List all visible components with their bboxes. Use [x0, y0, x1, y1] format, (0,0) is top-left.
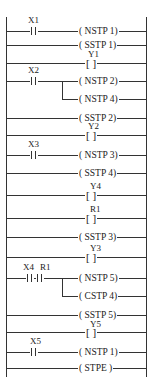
contact-x2: [30, 77, 38, 85]
contact-label: X1: [28, 16, 39, 25]
rung-17: [6, 332, 146, 333]
rung-11: [6, 218, 146, 219]
rung-10: [6, 195, 146, 196]
contact-r1: [36, 274, 44, 282]
rung-19: [6, 368, 146, 369]
rung-3: [6, 63, 146, 64]
coil-nstp4: ( NSTP 4): [78, 94, 119, 104]
output-box-y1: [ ]: [85, 58, 97, 68]
output-box-y4: [ ]: [85, 190, 97, 200]
coil-stpe: ( STPE ): [78, 363, 113, 373]
rung-6: [6, 118, 146, 119]
coil-nstp3: ( NSTP 3): [78, 150, 119, 160]
rung-2: [6, 45, 146, 46]
branch-2: [62, 278, 63, 296]
coil-sstp3: ( SSTP 3): [78, 232, 117, 242]
rung-16: [6, 315, 146, 316]
contact-x1: [30, 27, 38, 35]
contact-x5: [30, 348, 38, 356]
rung-4: [6, 81, 146, 82]
contact-label: X4: [23, 263, 34, 272]
coil-sstp4: ( SSTP 4): [78, 168, 117, 178]
coil-nstp1-b: ( NSTP 1): [78, 347, 119, 357]
contact-label: X5: [30, 337, 41, 346]
rung-9: [6, 173, 146, 174]
rung-18: [6, 352, 146, 353]
coil-nstp1: ( NSTP 1): [78, 26, 119, 36]
coil-nstp5: ( NSTP 5): [78, 273, 119, 283]
contact-x4: [26, 274, 34, 282]
coil-cstp4: ( CSTP 4): [78, 291, 118, 301]
output-box-y3: [ ]: [85, 252, 97, 262]
output-box-y2: [ ]: [85, 130, 97, 140]
contact-label: R1: [40, 263, 51, 272]
branch-1: [62, 81, 63, 99]
right-power-rail: [146, 17, 147, 377]
rung-1: [6, 31, 146, 32]
left-power-rail: [6, 17, 7, 377]
rung-13: [6, 257, 146, 258]
contact-label: X3: [28, 140, 39, 149]
rung-8: [6, 155, 146, 156]
rung-12: [6, 237, 146, 238]
output-box-r1: [ ]: [85, 213, 97, 223]
rung-7: [6, 135, 146, 136]
contact-x3: [30, 151, 38, 159]
coil-nstp2: ( NSTP 2): [78, 76, 119, 86]
output-box-y5: [ ]: [85, 327, 97, 337]
contact-label: X2: [28, 66, 39, 75]
